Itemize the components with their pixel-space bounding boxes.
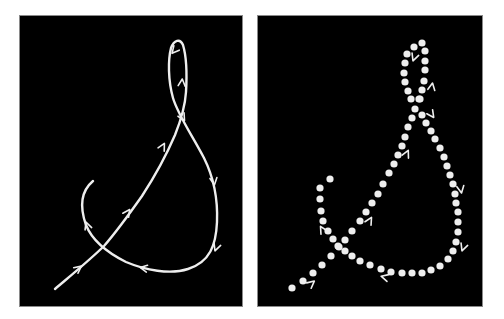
trajectory-dot [379,180,386,187]
trajectory-dot [421,47,428,54]
trajectory-dot [451,190,458,197]
trajectory-dot [408,114,415,121]
trajectory-dot [288,284,295,291]
trajectory-dot [454,208,461,215]
direction-arrow-icon [459,243,468,252]
trajectory-dot [452,199,459,206]
trajectory-dot [421,66,428,73]
trajectory-dot [318,261,325,268]
trajectory-dot [443,162,450,169]
trajectory-dot [404,123,411,130]
trajectory-dot [377,265,384,272]
dotted-curve [288,39,467,291]
direction-arrow-icon [158,142,167,151]
trajectory-dot [431,135,438,142]
trajectory-dot [326,175,333,182]
direction-arrow-icon [410,53,419,62]
trajectory-dot [348,227,355,234]
trajectory-dot [390,160,397,167]
direction-arrow-icon [365,216,375,226]
direction-arrow-icon [428,82,436,90]
trajectory-dot [421,57,428,64]
trajectory-dot [374,190,381,197]
trajectory-dot [408,269,415,276]
trajectory-dot [368,199,375,206]
trajectory-dot [317,207,324,214]
trajectory-dot [362,208,369,215]
trajectory-dot [316,195,323,202]
trajectory-dot [418,39,425,46]
trajectory-dot [454,228,461,235]
trajectory-dot [401,133,408,140]
trajectory-dot [427,266,434,273]
trajectory-dot [341,247,348,254]
trajectory-dot [418,269,425,276]
trajectory-dot [398,142,405,149]
trajectory-dot [416,95,423,102]
trajectory-dot [316,184,323,191]
trajectory-dot [401,78,408,85]
trajectory-dot [401,59,408,66]
direction-arrow-icon [307,278,317,288]
trajectory-dot [436,144,443,151]
trajectory-dot [444,255,451,262]
trajectory-dot [410,43,417,50]
trajectory-dot [411,105,418,112]
trajectory-dot [299,277,306,284]
trajectory-dot [366,261,373,268]
trajectory-dot [436,262,443,269]
trajectory-dot [341,236,348,243]
trajectory-dot [398,269,405,276]
trajectory-dot [403,50,410,57]
direction-arrow-icon [178,79,186,87]
trajectory-dot [420,77,427,84]
trajectory-dot [319,217,326,224]
direction-arrow-icon [427,110,437,120]
trajectory-dot [422,119,429,126]
trajectory-dot [348,252,355,259]
trajectory-dot [418,111,425,118]
trajectory-dot [449,180,456,187]
trajectory-dot [427,127,434,134]
trajectory-dot [309,269,316,276]
direction-arrow-icon [380,273,389,282]
trajectory-figure [0,0,504,319]
trajectory-dot [440,153,447,160]
trajectory-dot [449,247,456,254]
continuous-curve [55,41,221,289]
trajectory-dot [385,169,392,176]
trajectory-dot [324,227,331,234]
trajectory-dot [404,87,411,94]
trajectory-dot [356,257,363,264]
trajectory-dot [454,218,461,225]
trajectory-dot [356,217,363,224]
trajectory-dot [452,238,459,245]
trajectory-dot [418,86,425,93]
trajectory-dot [327,252,334,259]
trajectory-line [55,41,217,289]
direction-arrow-icon [402,149,411,158]
trajectory-dot [446,171,453,178]
trajectory-dot [407,95,414,102]
trajectory-dot [329,235,336,242]
trajectory-dot [400,69,407,76]
trajectory-dot [334,242,341,249]
trajectory-dot [394,151,401,158]
